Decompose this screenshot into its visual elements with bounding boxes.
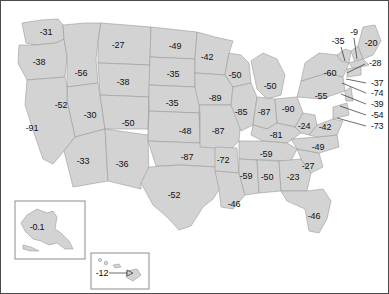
- value-label-maine: -20: [365, 38, 377, 48]
- value-label-nebraska: -35: [166, 98, 178, 108]
- value-label-minnesota: -42: [201, 52, 213, 62]
- value-label-hawaii: -12: [96, 268, 108, 278]
- value-label-wisconsin: -50: [229, 70, 241, 80]
- state-michigan: [251, 53, 285, 99]
- value-label-oklahoma: -87: [181, 152, 193, 162]
- value-label-kentucky: -81: [270, 130, 282, 140]
- value-label-mississippi: -59: [240, 171, 252, 181]
- value-label-south-carolina: -27: [302, 161, 314, 171]
- hawaii-island-kauai: [98, 258, 101, 261]
- value-label-indiana: -87: [258, 107, 270, 117]
- value-label-arkansas: -72: [217, 155, 229, 165]
- value-label-california: -91: [26, 123, 38, 133]
- value-label-new-mexico: -36: [116, 159, 128, 169]
- map-figure: -31-38-56-27-38-52-30-50-91-33-36-49-35-…: [0, 0, 389, 294]
- value-label-montana: -27: [112, 40, 124, 50]
- value-label-virginia: -42: [319, 122, 331, 132]
- value-label-nevada: -52: [55, 100, 67, 110]
- leader-new-jersey: [341, 94, 366, 104]
- state-texas: [141, 165, 221, 230]
- value-label-idaho: -56: [75, 68, 87, 78]
- state-montana: [98, 23, 151, 65]
- value-label-west-virginia: -24: [298, 121, 310, 131]
- value-label-louisiana: -46: [228, 199, 240, 209]
- value-label-wyoming: -38: [117, 77, 129, 87]
- value-label-south-dakota: -35: [167, 69, 179, 79]
- state-delaware-maryland: [333, 103, 349, 119]
- value-label-rhode-island: -37: [371, 78, 383, 88]
- leader-rhode-island: [346, 79, 366, 83]
- value-label-illinois: -85: [235, 107, 247, 117]
- value-label-new-hampshire: -9: [350, 27, 358, 37]
- value-label-alaska: -0.1: [30, 222, 45, 232]
- value-label-texas: -52: [168, 190, 180, 200]
- value-label-kansas: -48: [179, 126, 191, 136]
- state-new-jersey: [345, 87, 353, 101]
- state-kansas: [148, 111, 200, 143]
- value-label-delaware: -54: [371, 110, 383, 120]
- value-label-colorado: -50: [122, 118, 134, 128]
- value-label-washington: -31: [40, 27, 52, 37]
- value-label-pennsylvania: -60: [324, 68, 336, 78]
- value-label-florida: -46: [308, 211, 320, 221]
- value-label-georgia: -23: [287, 172, 299, 182]
- value-label-missouri: -87: [212, 126, 224, 136]
- value-label-north-carolina: -49: [312, 142, 324, 152]
- value-label-tennessee: -59: [260, 149, 272, 159]
- value-label-maryland: -73: [371, 121, 383, 131]
- alaska-inset: [15, 201, 85, 259]
- value-label-new-jersey: -39: [371, 99, 383, 109]
- alaska-aleutians: [23, 245, 39, 251]
- value-label-north-dakota: -49: [169, 41, 181, 51]
- value-label-new-york: -55: [315, 91, 327, 101]
- value-label-connecticut: -74: [371, 88, 383, 98]
- value-label-massachusetts: -28: [369, 58, 381, 68]
- hawaii-island-maui: [113, 264, 121, 268]
- state-florida: [281, 189, 331, 233]
- value-label-michigan: -50: [264, 81, 276, 91]
- value-label-oregon: -38: [33, 57, 45, 67]
- hawaii-island-oahu: [104, 261, 108, 265]
- value-label-alabama: -50: [261, 172, 273, 182]
- value-label-iowa: -89: [209, 93, 221, 103]
- value-label-utah: -30: [84, 110, 96, 120]
- value-label-arizona: -33: [77, 156, 89, 166]
- value-label-ohio: -90: [282, 104, 294, 114]
- value-label-vermont: -35: [332, 36, 344, 46]
